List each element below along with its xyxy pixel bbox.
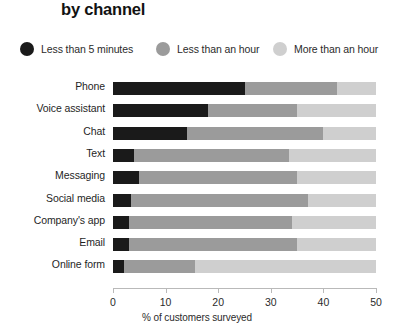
- x-axis-tick-label-5: 50: [370, 296, 382, 308]
- legend-swatch-icon: [273, 42, 287, 56]
- bar-row: [113, 104, 376, 117]
- bar-row: [113, 216, 376, 229]
- bar-segment[interactable]: [323, 127, 376, 140]
- bar-row: [113, 171, 376, 184]
- x-axis-tick: [271, 288, 272, 293]
- y-axis-label-2: Chat: [83, 125, 105, 137]
- bar-segment[interactable]: [292, 216, 376, 229]
- bar-segment[interactable]: [131, 194, 307, 207]
- x-axis-tick-label-3: 30: [265, 296, 277, 308]
- bar-segment[interactable]: [113, 238, 129, 251]
- legend-label: Less than an hour: [177, 43, 259, 55]
- bar-segment[interactable]: [208, 104, 297, 117]
- bar-segment[interactable]: [129, 216, 292, 229]
- x-axis-tick-label-4: 40: [318, 296, 330, 308]
- bar-segment[interactable]: [113, 82, 245, 95]
- bar-segment[interactable]: [297, 238, 376, 251]
- y-axis-label-6: Company's app: [34, 214, 105, 226]
- chart-title: by channel: [61, 0, 145, 19]
- legend-label: More than an hour: [294, 43, 378, 55]
- bar-segment[interactable]: [289, 149, 376, 162]
- x-axis-tick-label-1: 10: [160, 296, 172, 308]
- bar-segment[interactable]: [187, 127, 324, 140]
- bar-segment[interactable]: [113, 149, 134, 162]
- bar-segment[interactable]: [297, 104, 376, 117]
- legend-label: Less than 5 minutes: [41, 43, 133, 55]
- x-axis-tick: [218, 288, 219, 293]
- bar-segment[interactable]: [113, 194, 131, 207]
- y-axis-label-1: Voice assistant: [36, 102, 105, 114]
- bar-row: [113, 260, 376, 273]
- y-axis-label-4: Messaging: [55, 169, 105, 181]
- bar-row: [113, 127, 376, 140]
- x-axis-tick: [376, 288, 377, 293]
- bar-segment[interactable]: [195, 260, 376, 273]
- bar-segment[interactable]: [113, 171, 139, 184]
- x-axis-tick: [166, 288, 167, 293]
- bar-segment[interactable]: [297, 171, 376, 184]
- x-axis-line: [113, 288, 377, 289]
- bar-row: [113, 149, 376, 162]
- stacked-bar-chart: by channel Less than 5 minutesLess than …: [0, 0, 394, 328]
- y-axis-category-labels: PhoneVoice assistantChatTextMessagingSoc…: [0, 80, 105, 288]
- bar-segment[interactable]: [308, 194, 376, 207]
- bar-row: [113, 238, 376, 251]
- bar-segment[interactable]: [134, 149, 289, 162]
- bar-segment[interactable]: [139, 171, 297, 184]
- bar-row: [113, 82, 376, 95]
- bar-segment[interactable]: [113, 216, 129, 229]
- legend-item-1[interactable]: Less than an hour: [156, 41, 259, 57]
- bar-segment[interactable]: [124, 260, 195, 273]
- legend-item-2[interactable]: More than an hour: [273, 41, 378, 57]
- x-axis-title: % of customers surveyed: [0, 312, 394, 323]
- bar-segment[interactable]: [337, 82, 376, 95]
- x-axis-tick: [113, 288, 114, 293]
- bar-segment[interactable]: [245, 82, 337, 95]
- legend-swatch-icon: [20, 42, 34, 56]
- bar-segment[interactable]: [113, 260, 124, 273]
- x-axis-tick: [323, 288, 324, 293]
- y-axis-label-0: Phone: [75, 80, 105, 92]
- legend-swatch-icon: [156, 42, 170, 56]
- y-axis-label-5: Social media: [46, 192, 105, 204]
- y-axis-label-3: Text: [86, 147, 105, 159]
- bar-segment[interactable]: [113, 127, 187, 140]
- x-axis-tick-label-2: 20: [212, 296, 224, 308]
- bar-segment[interactable]: [113, 104, 208, 117]
- x-axis-tick-label-0: 0: [110, 296, 116, 308]
- bar-row: [113, 194, 376, 207]
- legend-item-0[interactable]: Less than 5 minutes: [20, 41, 133, 57]
- bar-segment[interactable]: [129, 238, 297, 251]
- y-axis-label-8: Online form: [52, 258, 105, 270]
- plot-area: [113, 80, 376, 288]
- y-axis-label-7: Email: [79, 236, 105, 248]
